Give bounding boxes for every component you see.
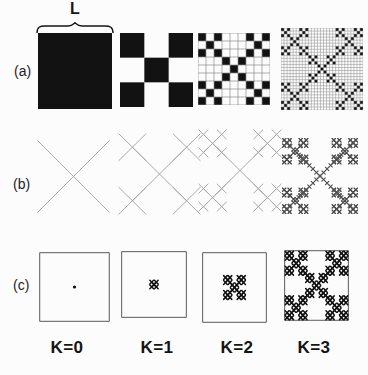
cluster-square-graphic (121, 251, 187, 318)
row-label-b: (b) (13, 176, 30, 192)
panel-b-k1 (118, 133, 201, 215)
cross-lines-graphic (118, 133, 201, 215)
cluster-square-graphic (202, 252, 267, 323)
length-label: L (70, 0, 80, 18)
panel-a-k1 (120, 33, 193, 107)
iteration-label-k3: K=3 (297, 338, 330, 358)
fractal-figure: L (a) (b) (c) K=0 K=1 K=2 K=3 (0, 0, 368, 375)
checkerboard-graphic (120, 33, 193, 107)
cross-lines-graphic (198, 129, 282, 212)
cluster-square-graphic (284, 250, 349, 321)
panel-b-k2 (198, 129, 282, 212)
panel-c-k0 (39, 252, 110, 322)
panel-a-k0 (38, 33, 112, 109)
row-label-a: (a) (14, 63, 31, 79)
panel-c-k3 (284, 250, 349, 321)
panel-b-k3 (282, 138, 358, 214)
cross-lines-graphic (37, 140, 110, 213)
checkerboard-graphic (198, 33, 270, 105)
iteration-label-k0: K=0 (50, 338, 83, 358)
panel-a-k2 (198, 33, 270, 105)
iteration-label-k2: K=2 (220, 338, 253, 358)
cross-lines-graphic (282, 138, 358, 214)
cluster-square-graphic (39, 252, 110, 322)
panel-c-k2 (202, 252, 267, 323)
panel-b-k0 (37, 140, 110, 213)
panel-c-k1 (121, 251, 187, 318)
row-label-c: (c) (13, 277, 29, 293)
panel-a-k3 (281, 28, 363, 110)
iteration-label-k1: K=1 (140, 338, 173, 358)
checkerboard-graphic (281, 28, 363, 110)
filled-square-graphic (38, 33, 112, 109)
